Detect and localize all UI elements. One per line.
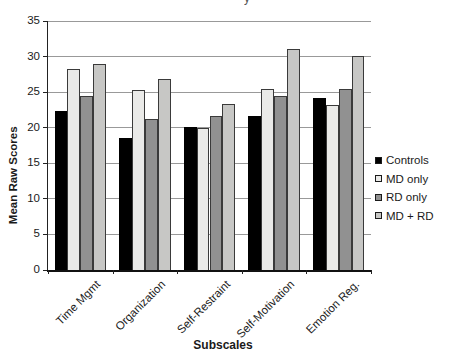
bar-controls-self-motivation (248, 116, 261, 270)
y-tick-label-10: 10 (27, 192, 40, 204)
y-tick-10 (43, 198, 47, 199)
bar-rd-only-time-mgmt (80, 96, 93, 270)
legend-label-md-rd: MD + RD (386, 210, 434, 222)
bar-controls-time-mgmt (55, 111, 68, 270)
legend-item-controls: Controls (375, 151, 434, 170)
x-tick-label-self-restraint: Self-Restraint (174, 278, 232, 336)
y-tick-30 (43, 56, 47, 57)
y-tick-label-15: 15 (27, 156, 40, 168)
y-tick-label-20: 20 (27, 121, 40, 133)
bar-md-only-emotion-reg (326, 105, 339, 270)
plot-area (48, 21, 371, 270)
bar-rd-only-self-restraint (210, 116, 223, 270)
bar-md-only-self-restraint (197, 128, 210, 270)
bar-md-rd-emotion-reg (352, 56, 365, 270)
gridline-30 (48, 56, 371, 57)
x-tick-label-time-mgmt: Time Mgmt (54, 278, 103, 327)
x-tick-label-emotion-reg: Emotion Reg. (303, 278, 361, 336)
legend: ControlsMD onlyRD onlyMD + RD (375, 151, 434, 225)
y-axis-line (47, 21, 48, 270)
legend-item-md-only: MD only (375, 170, 434, 189)
x-tick-3 (242, 270, 243, 274)
bar-md-only-self-motivation (261, 89, 274, 270)
legend-swatch-rd-only (375, 194, 382, 201)
bar-md-only-time-mgmt (67, 69, 80, 270)
y-tick-label-30: 30 (27, 50, 40, 62)
x-tick-5 (371, 270, 372, 274)
y-tick-35 (43, 21, 47, 22)
bar-chart-figure: y Mean Raw Scores Subscales ControlsMD o… (0, 0, 457, 363)
x-tick-4 (306, 270, 307, 274)
y-axis-title: Mean Raw Scores (7, 126, 19, 224)
bar-md-rd-organization (158, 79, 171, 270)
bar-rd-only-self-motivation (274, 96, 287, 270)
y-tick-label-5: 5 (34, 227, 40, 239)
y-tick-label-0: 0 (34, 263, 40, 275)
x-tick-0 (48, 270, 49, 274)
legend-swatch-md-only (375, 175, 382, 182)
x-tick-label-self-motivation: Self-Motivation (234, 278, 296, 340)
bar-controls-self-restraint (184, 127, 197, 270)
x-axis-line (47, 270, 371, 272)
legend-swatch-md-rd (375, 212, 382, 219)
legend-item-rd-only: RD only (375, 188, 434, 207)
legend-label-rd-only: RD only (386, 191, 427, 203)
y-tick-15 (43, 163, 47, 164)
legend-item-md-rd: MD + RD (375, 207, 434, 226)
y-tick-label-25: 25 (27, 85, 40, 97)
cropped-title-fragment: y (244, 0, 254, 6)
y-tick-0 (43, 270, 47, 271)
bar-controls-organization (119, 138, 132, 270)
x-tick-2 (177, 270, 178, 274)
gridline-35 (48, 21, 371, 22)
y-tick-label-35: 35 (27, 14, 40, 26)
legend-swatch-controls (375, 157, 382, 164)
bar-controls-emotion-reg (313, 98, 326, 270)
bar-md-rd-time-mgmt (93, 64, 106, 270)
bar-md-rd-self-motivation (287, 49, 300, 270)
bar-md-only-organization (132, 90, 145, 270)
bar-md-rd-self-restraint (222, 104, 235, 270)
x-tick-label-organization: Organization (113, 278, 168, 333)
y-tick-20 (43, 127, 47, 128)
legend-label-md-only: MD only (386, 173, 428, 185)
x-tick-1 (113, 270, 114, 274)
bar-rd-only-organization (145, 119, 158, 270)
y-tick-5 (43, 234, 47, 235)
x-axis-title: Subscales (193, 338, 252, 352)
y-tick-25 (43, 92, 47, 93)
legend-label-controls: Controls (386, 154, 429, 166)
bar-rd-only-emotion-reg (339, 89, 352, 270)
